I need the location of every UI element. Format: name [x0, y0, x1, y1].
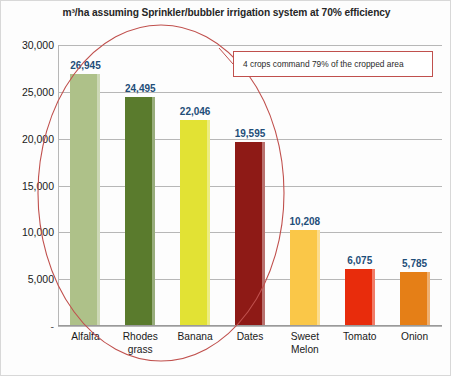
x-label-line: Sweet — [277, 330, 332, 343]
bar-value-label: 22,046 — [180, 106, 211, 117]
y-tick-label-20000: 20,000 — [2, 133, 54, 145]
x-axis-label-dates: Dates — [223, 330, 278, 343]
x-axis-label-tomato: Tomato — [332, 330, 387, 343]
bar-highlight — [317, 230, 320, 326]
y-tick-label-5000: 5,000 — [2, 273, 54, 285]
bar-slot: 6,075 — [345, 45, 375, 326]
bar-highlight — [427, 272, 430, 326]
bar-slot: 22,046 — [180, 45, 210, 326]
bar-value-label: 6,075 — [347, 255, 372, 266]
plot-area: 26,94524,49522,04619,59510,2086,0755,785 — [58, 45, 442, 326]
bar-highlight — [207, 120, 210, 326]
chart-screenshot: m³/ha assuming Sprinkler/bubbler irrigat… — [0, 0, 451, 376]
x-axis-label-sweet-melon: SweetMelon — [277, 330, 332, 356]
x-axis-label-banana: Banana — [168, 330, 223, 343]
bar-value-label: 19,595 — [235, 128, 266, 139]
x-label-line: Alfalfa — [58, 330, 113, 343]
bar-slot: 19,595 — [235, 45, 265, 326]
cropped-area-callout: 4 crops command 79% of the cropped area — [233, 51, 433, 77]
bar-slot: 26,945 — [70, 45, 100, 326]
x-axis-label-rhodes-grass: Rhodesgrass — [113, 330, 168, 356]
x-axis-label-alfalfa: Alfalfa — [58, 330, 113, 343]
bar-value-label: 10,208 — [290, 216, 321, 227]
bar-onion[interactable]: 5,785 — [400, 272, 430, 326]
y-tick-label-10000: 10,000 — [2, 226, 54, 238]
bar-alfalfa[interactable]: 26,945 — [70, 74, 100, 326]
bar-value-label: 5,785 — [402, 258, 427, 269]
y-tick-label-0: - — [2, 320, 54, 332]
chart-title: m³/ha assuming Sprinkler/bubbler irrigat… — [1, 7, 451, 18]
bar-sweet-melon[interactable]: 10,208 — [290, 230, 320, 326]
x-axis-label-onion: Onion — [387, 330, 442, 343]
bar-highlight — [152, 97, 155, 326]
bar-banana[interactable]: 22,046 — [180, 120, 210, 326]
bar-highlight — [262, 142, 265, 326]
bar-value-label: 24,495 — [125, 83, 156, 94]
bar-slot: 10,208 — [290, 45, 320, 326]
x-label-line: Tomato — [332, 330, 387, 343]
bar-dates[interactable]: 19,595 — [235, 142, 265, 326]
y-tick-label-25000: 25,000 — [2, 86, 54, 98]
x-axis-labels: AlfalfaRhodesgrassBananaDatesSweetMelonT… — [58, 330, 442, 376]
callout-text: 4 crops command 79% of the cropped area — [243, 59, 404, 69]
y-tick-label-15000: 15,000 — [2, 180, 54, 192]
x-label-line: Banana — [168, 330, 223, 343]
bar-rhodes-grass[interactable]: 24,495 — [125, 97, 155, 326]
bar-highlight — [372, 269, 375, 326]
bar-slot: 24,495 — [125, 45, 155, 326]
x-axis-line — [58, 325, 442, 326]
x-label-line: Rhodes — [113, 330, 168, 343]
x-label-line: Onion — [387, 330, 442, 343]
bar-highlight — [97, 74, 100, 326]
bar-tomato[interactable]: 6,075 — [345, 269, 375, 326]
x-label-line: Melon — [277, 343, 332, 356]
gridline-0 — [58, 326, 442, 327]
x-label-line: Dates — [223, 330, 278, 343]
bar-value-label: 26,945 — [70, 60, 101, 71]
bar-slot: 5,785 — [400, 45, 430, 326]
x-label-line: grass — [113, 343, 168, 356]
y-tick-label-30000: 30,000 — [2, 39, 54, 51]
